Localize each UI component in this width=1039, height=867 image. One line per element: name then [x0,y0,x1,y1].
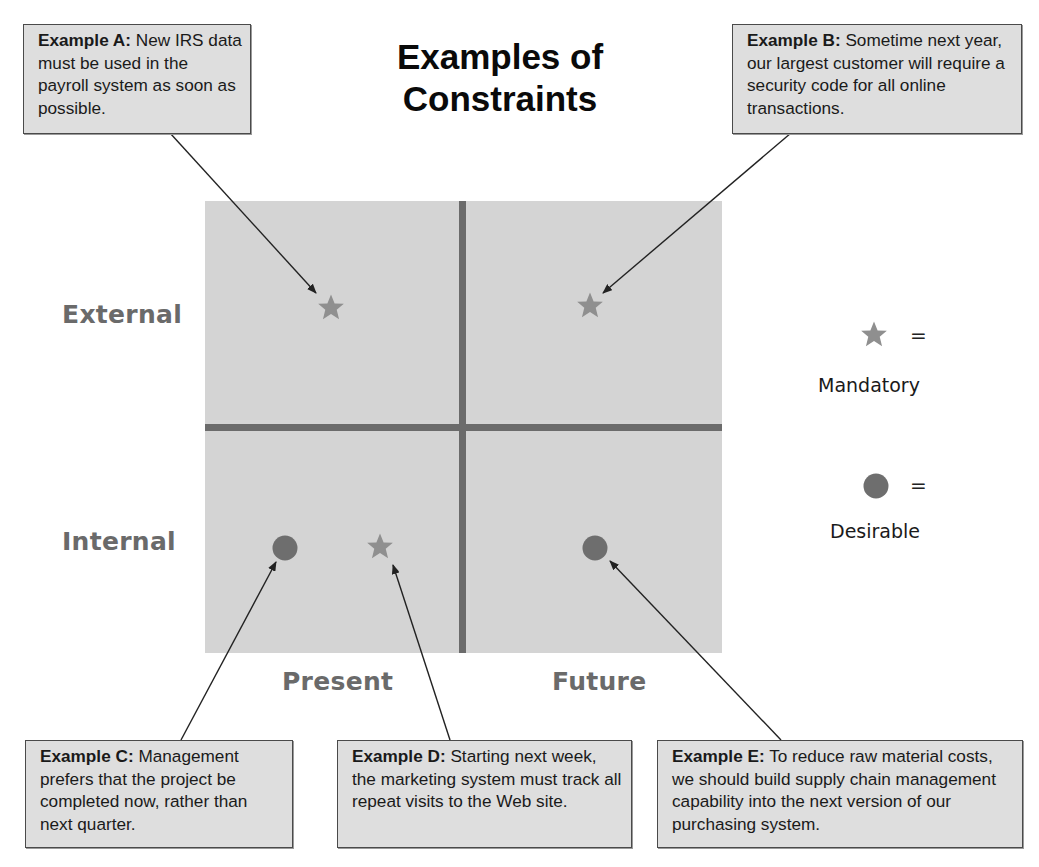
example-c-heading: Example C: [40,746,134,766]
title-line-1: Examples of [335,36,665,78]
example-d-callout: Example D: Starting next week, the marke… [337,740,632,848]
legend-circle-icon [864,474,889,499]
example-a-heading: Example A: [38,30,131,50]
row-label-internal: Internal [62,527,176,556]
example-b-heading: Example B: [747,30,841,50]
legend-equals-mandatory: = [910,323,927,347]
example-a-callout: Example A: New IRS data must be used in … [23,24,251,134]
example-c-callout: Example C: Management prefers that the p… [25,740,293,848]
row-label-external: External [62,300,182,329]
example-e-heading: Example E: [672,746,765,766]
horizontal-divider [205,424,722,431]
legend-label-mandatory: Mandatory [818,374,920,396]
legend-star-icon [861,322,887,347]
page-title: Examples of Constraints [335,36,665,120]
example-b-callout: Example B: Sometime next year, our large… [732,24,1022,134]
example-d-heading: Example D: [352,746,446,766]
legend-label-desirable: Desirable [830,520,920,542]
constraint-matrix [205,201,722,653]
legend-equals-desirable: = [910,473,927,497]
column-label-present: Present [282,667,393,696]
title-line-2: Constraints [335,78,665,120]
example-e-callout: Example E: To reduce raw material costs,… [657,740,1023,848]
column-label-future: Future [552,667,646,696]
